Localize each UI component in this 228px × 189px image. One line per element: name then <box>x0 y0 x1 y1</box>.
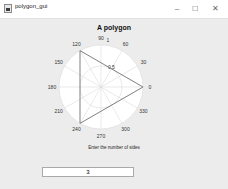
theta-tick-label: 30 <box>141 59 147 65</box>
theta-tick-label: 210 <box>54 108 63 114</box>
theta-tick-label: 270 <box>97 133 106 139</box>
sides-label: Enter the number of sides <box>0 145 228 150</box>
theta-tick-label: 150 <box>54 59 63 65</box>
theta-tick-label: 0 <box>149 84 152 90</box>
theta-tick-label: 120 <box>72 41 81 47</box>
sides-input[interactable]: 3 <box>42 167 134 177</box>
theta-tick-label: 180 <box>48 84 57 90</box>
polar-plot: 03060901201501802102402703003300.51 <box>0 0 228 189</box>
r-tick-label: 1 <box>107 37 110 43</box>
theta-tick-label: 60 <box>123 41 129 47</box>
theta-tick-label: 240 <box>72 126 81 132</box>
theta-tick-label: 90 <box>98 35 104 41</box>
theta-tick-label: 300 <box>121 126 130 132</box>
theta-tick-label: 330 <box>139 108 148 114</box>
